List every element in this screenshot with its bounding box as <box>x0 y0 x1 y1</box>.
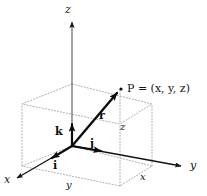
dimension-label-z: z <box>120 122 125 132</box>
unit-vector-label-j: j <box>90 138 94 149</box>
axis-label-z: z <box>65 4 71 15</box>
diagram-canvas <box>0 0 207 196</box>
box-bottom-face <box>22 146 152 186</box>
unit-vector-i <box>52 146 72 158</box>
axis-label-y: y <box>190 160 196 171</box>
position-vector-r <box>72 87 123 146</box>
dimension-label-y: y <box>66 180 72 190</box>
position-vector-label-r: r <box>99 110 105 121</box>
axis-label-x: x <box>4 174 10 185</box>
unit-vector-label-k: k <box>55 126 63 137</box>
unit-vector-label-i: i <box>53 160 57 171</box>
unit-vector-j <box>72 146 101 151</box>
point-P-dot <box>119 87 122 90</box>
figure-3d-coordinate-system: z y x P = (x, y, z) z y x k j i r <box>0 0 207 196</box>
reference-box-dotted <box>22 84 152 186</box>
point-label-P: P = (x, y, z) <box>127 83 190 94</box>
dimension-label-x: x <box>140 172 146 182</box>
origin-dot <box>71 145 74 148</box>
